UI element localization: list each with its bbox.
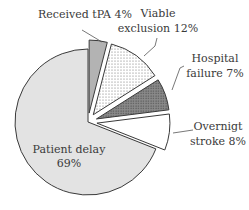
leader-line-hospital [172, 66, 184, 90]
pie-chart: Received tPA 4% Viable exclusion 12% Hos… [0, 0, 249, 210]
label-hospital-line1: Hospital [192, 52, 239, 65]
leader-line-viable [144, 38, 157, 56]
label-received-tpa: Received tPA 4% [38, 8, 132, 21]
label-viable-line1: Viable [140, 7, 176, 20]
label-patient-line2: 69% [57, 157, 81, 170]
leader-line-overnight [173, 130, 193, 133]
label-hospital-line2: failure 7% [186, 67, 243, 80]
label-viable-line2: exclusion 12% [118, 22, 198, 35]
label-overnight-line1: Overnigt [193, 120, 243, 133]
label-overnight-line2: stroke 8% [190, 135, 246, 148]
label-patient-line1: Patient delay [33, 143, 107, 156]
pie-slices [15, 40, 170, 195]
